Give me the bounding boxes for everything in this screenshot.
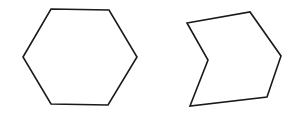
regular-hexagon-shape	[23, 9, 137, 105]
concave-hexagon-shape	[187, 12, 281, 106]
diagram-canvas: regular-hexagon concave-hexagon	[0, 0, 302, 118]
shapes-figure	[0, 0, 302, 118]
